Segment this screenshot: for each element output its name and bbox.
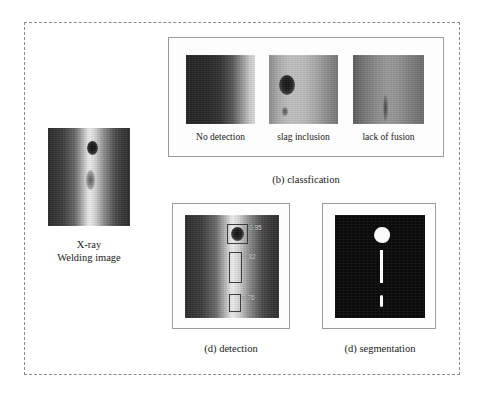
weld-thumb-lack-of-fusion (353, 55, 424, 124)
defect-blob-slag (279, 75, 295, 95)
segmentation-panel (322, 203, 436, 329)
detection-box-2 (229, 252, 242, 283)
xray-welding-image (48, 128, 130, 226)
classification-panel: No detection slag inclusion lack of fusi… (168, 37, 444, 157)
weld-gradient (353, 55, 424, 124)
thumb-label-no-detection: No detection (173, 131, 268, 143)
defect-blob-slag (87, 141, 98, 155)
weld-segmentation-mask (335, 215, 425, 318)
detection-caption: (d) detection (181, 342, 281, 355)
detection-score-1: 0.95 (249, 224, 262, 232)
source-caption: X-ray Welding image (38, 238, 140, 264)
thumb-label-lack-of-fusion: lack of fusion (341, 131, 436, 143)
thumb-label-slag-inclusion: slag inclusion (256, 131, 351, 143)
weld-thumb-no-detection (186, 55, 255, 124)
defect-smudge-faint (282, 107, 288, 116)
defect-blob-slag (231, 227, 244, 241)
figure-root: X-ray Welding image No detection slag in… (0, 0, 487, 400)
weld-detection-image: 0.95 0.82 0.76 (185, 215, 279, 318)
classification-caption: (b) classfication (226, 173, 386, 186)
detection-box-3 (229, 294, 241, 312)
detection-score-2: 0.82 (243, 253, 256, 261)
mask-region-slag-blob (374, 227, 390, 243)
mask-region-lower-defect (380, 295, 383, 307)
defect-smudge-fusion-line (383, 95, 388, 121)
detection-panel: 0.95 0.82 0.76 (172, 203, 290, 329)
segmentation-caption: (d) segmentation (325, 342, 435, 355)
detection-score-3: 0.76 (242, 294, 255, 302)
weld-thumb-slag-inclusion (269, 55, 338, 124)
defect-smudge-faint (86, 170, 95, 190)
mask-region-fusion-line (380, 250, 383, 283)
weld-gradient (186, 55, 255, 124)
